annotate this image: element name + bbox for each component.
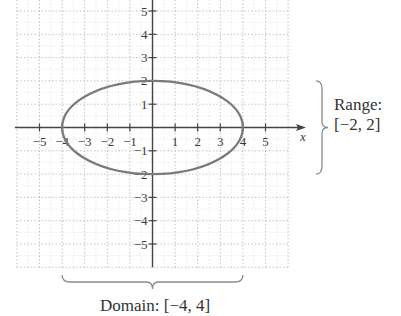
x-tick-label: −3 bbox=[78, 134, 92, 149]
y-tick-label: −1 bbox=[134, 143, 148, 158]
y-tick-label: −3 bbox=[134, 190, 148, 205]
x-tick-label: 1 bbox=[172, 134, 179, 149]
range-brace bbox=[316, 81, 328, 174]
x-tick-label: −5 bbox=[33, 134, 47, 149]
range-label: Range: bbox=[334, 95, 382, 115]
domain-brace bbox=[62, 275, 243, 289]
y-tick-label: −4 bbox=[134, 213, 148, 228]
axes: x−5−4−3−2−11234554321−1−2−3−4−5 bbox=[15, 0, 306, 267]
y-tick-label: 4 bbox=[141, 27, 148, 42]
y-tick-label: −5 bbox=[134, 237, 148, 252]
x-axis-label: x bbox=[299, 129, 306, 144]
x-tick-label: 3 bbox=[217, 134, 224, 149]
range-annotation: Range: [−2, 2] bbox=[334, 95, 382, 135]
range-value: [−2, 2] bbox=[334, 115, 382, 135]
y-tick-label: 5 bbox=[141, 4, 148, 19]
x-tick-label: 2 bbox=[194, 134, 201, 149]
x-tick-label: 5 bbox=[262, 134, 269, 149]
domain-annotation: Domain: [−4, 4] bbox=[100, 296, 210, 316]
x-tick-label: −2 bbox=[100, 134, 114, 149]
y-tick-label: 3 bbox=[141, 50, 148, 65]
y-tick-label: 1 bbox=[141, 97, 148, 112]
